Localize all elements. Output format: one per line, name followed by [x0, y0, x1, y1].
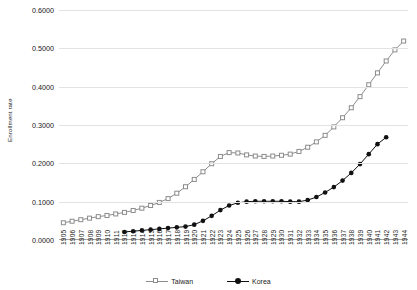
x-tick-label: 1942	[383, 230, 390, 245]
series-line-korea	[124, 137, 386, 232]
data-point-taiwan	[341, 116, 345, 120]
enrollment-rate-chart: Enrollment rate 0.00000.10000.20000.3000…	[0, 0, 417, 290]
data-point-taiwan	[358, 95, 362, 99]
x-tick-label: 1938	[348, 230, 355, 245]
data-point-korea	[314, 195, 319, 200]
data-point-taiwan	[70, 219, 74, 223]
x-tick-label: 1933	[304, 230, 311, 245]
legend-item-taiwan[interactable]: Taiwan	[146, 277, 193, 285]
x-tick-label: 1910	[103, 230, 110, 245]
y-axis-tick-labels: 0.00000.10000.20000.30000.40000.50000.60…	[8, 0, 54, 290]
legend-label: Taiwan	[171, 278, 193, 285]
x-tick-label: 1924	[226, 230, 233, 245]
data-point-taiwan	[262, 154, 266, 158]
legend-label: Korea	[252, 278, 271, 285]
data-point-korea	[384, 135, 389, 140]
x-tick-label: 1918	[173, 230, 180, 245]
data-point-korea	[349, 171, 354, 176]
gridline	[59, 48, 408, 49]
data-point-taiwan	[236, 151, 240, 155]
data-point-taiwan	[288, 152, 292, 156]
data-point-taiwan	[253, 154, 257, 158]
data-point-taiwan	[96, 215, 100, 219]
x-tick-label: 1928	[261, 230, 268, 245]
data-point-taiwan	[105, 213, 109, 217]
chart-legend: TaiwanKorea	[0, 274, 417, 288]
data-point-taiwan	[314, 140, 318, 144]
x-tick-label: 1907	[77, 230, 84, 245]
x-tick-label: 1929	[269, 230, 276, 245]
x-tick-label: 1916	[156, 230, 163, 245]
legend-marker-korea-icon	[227, 277, 249, 285]
data-point-taiwan	[349, 106, 353, 110]
data-point-korea	[375, 142, 380, 147]
x-tick-label: 1935	[322, 230, 329, 245]
x-tick-label: 1911	[112, 230, 119, 245]
x-tick-label: 1932	[295, 230, 302, 245]
x-tick-label: 1934	[313, 230, 320, 245]
x-tick-label: 1905	[60, 230, 67, 245]
y-tick-label: 0.6000	[8, 6, 54, 15]
data-point-taiwan	[323, 133, 327, 137]
data-point-taiwan	[402, 39, 406, 43]
data-point-korea	[218, 208, 223, 213]
y-tick-label: 0.0000	[8, 236, 54, 245]
y-tick-label: 0.1000	[8, 197, 54, 206]
data-point-taiwan	[122, 210, 126, 214]
data-point-taiwan	[201, 170, 205, 174]
gridline	[59, 125, 408, 126]
data-point-taiwan	[297, 149, 301, 153]
data-point-taiwan	[131, 208, 135, 212]
x-tick-label: 1925	[234, 230, 241, 245]
data-point-korea	[227, 203, 232, 208]
x-tick-label: 1908	[86, 230, 93, 245]
x-tick-label: 1927	[252, 230, 259, 245]
series-line-taiwan	[63, 41, 403, 223]
data-point-taiwan	[279, 153, 283, 157]
data-point-taiwan	[166, 197, 170, 201]
legend-item-korea[interactable]: Korea	[227, 277, 271, 285]
x-tick-label: 1923	[217, 230, 224, 245]
x-tick-label: 1931	[287, 230, 294, 245]
x-tick-label: 1944	[400, 230, 407, 245]
data-point-korea	[183, 224, 188, 229]
x-tick-label: 1936	[330, 230, 337, 245]
legend-marker-taiwan-icon	[146, 277, 168, 285]
data-point-korea	[323, 190, 328, 195]
y-tick-label: 0.3000	[8, 121, 54, 130]
x-tick-label: 1941	[374, 230, 381, 245]
x-tick-label: 1915	[147, 230, 154, 245]
x-tick-label: 1913	[130, 230, 137, 245]
data-point-korea	[192, 222, 197, 227]
x-tick-label: 1930	[278, 230, 285, 245]
data-point-taiwan	[384, 59, 388, 63]
x-tick-label: 1919	[182, 230, 189, 245]
x-tick-label: 1940	[365, 230, 372, 245]
gridline	[59, 202, 408, 203]
gridline	[59, 163, 408, 164]
x-tick-label: 1917	[165, 230, 172, 245]
data-point-taiwan	[114, 212, 118, 216]
data-point-taiwan	[192, 177, 196, 181]
data-point-korea	[366, 152, 371, 157]
data-point-korea	[332, 185, 337, 190]
x-tick-label: 1943	[391, 230, 398, 245]
data-point-taiwan	[306, 145, 310, 149]
data-point-taiwan	[271, 154, 275, 158]
x-tick-label: 1920	[191, 230, 198, 245]
y-tick-label: 0.4000	[8, 82, 54, 91]
y-tick-label: 0.5000	[8, 44, 54, 53]
data-point-taiwan	[88, 216, 92, 220]
data-point-taiwan	[140, 206, 144, 210]
data-point-taiwan	[175, 191, 179, 195]
gridline	[59, 87, 408, 88]
x-tick-label: 1922	[208, 230, 215, 245]
data-point-taiwan	[375, 71, 379, 75]
data-point-taiwan	[227, 151, 231, 155]
data-point-taiwan	[245, 153, 249, 157]
x-tick-label: 1939	[357, 230, 364, 245]
data-point-taiwan	[218, 154, 222, 158]
data-point-taiwan	[61, 221, 65, 225]
x-tick-label: 1912	[121, 230, 128, 245]
data-point-taiwan	[184, 185, 188, 189]
